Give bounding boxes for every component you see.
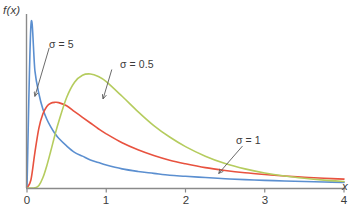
curve-label-sigma-1: σ = 1 <box>236 134 261 146</box>
curve-series-3 <box>27 74 344 188</box>
x-tick-label-4: 4 <box>334 194 353 206</box>
x-tick-label-2: 2 <box>176 194 196 206</box>
y-axis-label: f(x) <box>3 4 20 16</box>
annotation-arrow-1 <box>35 48 49 96</box>
x-tick-label-1: 1 <box>96 194 116 206</box>
curve-series-1 <box>27 21 344 188</box>
curve-label-sigma-5: σ = 5 <box>49 38 74 50</box>
chart-canvas <box>0 0 353 213</box>
x-tick-label-3: 3 <box>255 194 275 206</box>
curve-label-sigma-0-5: σ = 0.5 <box>120 58 154 70</box>
annotation-arrow-2 <box>219 146 243 173</box>
chart-figure: f(x) x 0 1 2 3 4 σ = 5 σ = 0.5 σ = 1 <box>0 0 353 213</box>
curves-group <box>27 21 344 188</box>
curve-series-2 <box>27 102 344 188</box>
x-axis-label: x <box>342 180 348 192</box>
annotation-arrow-3 <box>103 70 112 99</box>
x-tick-label-0: 0 <box>17 194 37 206</box>
